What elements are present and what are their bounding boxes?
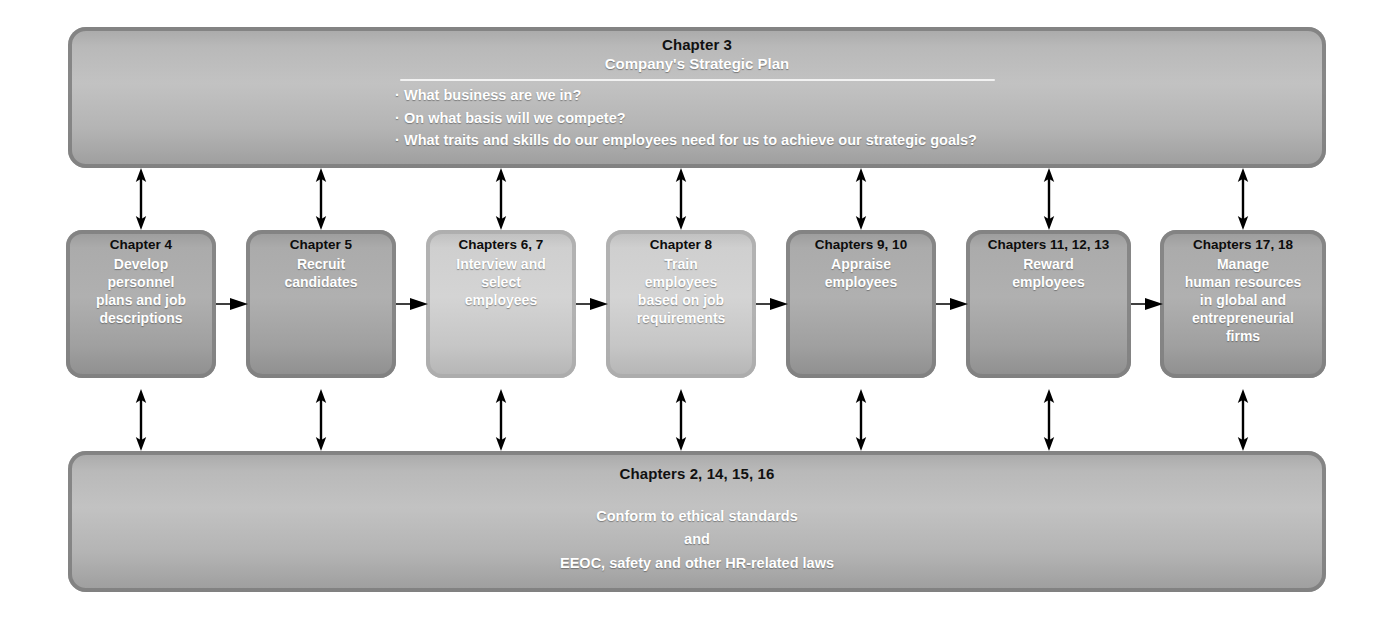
vertical-double-arrow-top bbox=[1041, 168, 1057, 230]
process-flow-arrow bbox=[216, 296, 248, 312]
bottom-panel-lines: Conform to ethical standardsandEEOC, saf… bbox=[68, 505, 1326, 575]
vertical-double-arrow-bottom bbox=[313, 389, 329, 451]
step-chapter-label: Chapter 5 bbox=[251, 237, 391, 254]
process-step-box[interactable]: Chapters 6, 7Interview andselectemployee… bbox=[426, 230, 576, 378]
top-panel-title: Company's Strategic Plan bbox=[68, 54, 1326, 74]
process-step-box[interactable]: Chapter 4Developpersonnelplans and jobde… bbox=[66, 230, 216, 378]
strategic-questions-list: What business are we in?On what basis wi… bbox=[68, 84, 1326, 152]
vertical-double-arrow-top bbox=[313, 168, 329, 230]
bottom-panel-line: EEOC, safety and other HR-related laws bbox=[68, 552, 1326, 575]
title-divider bbox=[400, 79, 995, 81]
step-chapter-label: Chapter 4 bbox=[71, 237, 211, 254]
diagram-canvas: Chapter 3 Company's Strategic Plan What … bbox=[0, 0, 1393, 619]
vertical-double-arrow-top bbox=[673, 168, 689, 230]
step-chapter-label: Chapters 9, 10 bbox=[791, 237, 931, 254]
step-body-text: Trainemployeesbased on jobrequirements bbox=[611, 255, 751, 328]
strategic-question-item: What traits and skills do our employees … bbox=[395, 129, 1326, 152]
vertical-double-arrow-bottom bbox=[133, 389, 149, 451]
vertical-double-arrow-top bbox=[493, 168, 509, 230]
process-flow-arrow bbox=[756, 296, 788, 312]
vertical-double-arrow-top bbox=[853, 168, 869, 230]
process-flow-arrow bbox=[1131, 296, 1163, 312]
strategic-question-item: What business are we in? bbox=[395, 84, 1326, 107]
vertical-double-arrow-bottom bbox=[1235, 389, 1251, 451]
process-flow-arrow bbox=[936, 296, 968, 312]
step-body-text: Managehuman resourcesin global andentrep… bbox=[1165, 255, 1321, 346]
process-step-box[interactable]: Chapters 11, 12, 13Rewardemployees bbox=[966, 230, 1131, 378]
step-body-text: Developpersonnelplans and jobdescription… bbox=[71, 255, 211, 328]
process-step-box[interactable]: Chapters 9, 10Appraiseemployees bbox=[786, 230, 936, 378]
step-chapter-label: Chapters 6, 7 bbox=[431, 237, 571, 254]
process-flow-arrow bbox=[576, 296, 608, 312]
process-step-box[interactable]: Chapter 5Recruitcandidates bbox=[246, 230, 396, 378]
vertical-double-arrow-bottom bbox=[493, 389, 509, 451]
step-body-text: Recruitcandidates bbox=[251, 255, 391, 291]
legal-ethics-panel: Chapters 2, 14, 15, 16 Conform to ethica… bbox=[68, 451, 1326, 592]
vertical-double-arrow-top bbox=[133, 168, 149, 230]
top-panel-chapter-label: Chapter 3 bbox=[68, 36, 1326, 54]
bottom-panel-chapter-label: Chapters 2, 14, 15, 16 bbox=[68, 465, 1326, 483]
process-step-box[interactable]: Chapter 8Trainemployeesbased on jobrequi… bbox=[606, 230, 756, 378]
bottom-panel-line: and bbox=[68, 528, 1326, 551]
step-body-text: Interview andselectemployees bbox=[431, 255, 571, 310]
step-body-text: Rewardemployees bbox=[971, 255, 1126, 291]
strategic-question-item: On what basis will we compete? bbox=[395, 107, 1326, 130]
process-flow-arrow bbox=[396, 296, 428, 312]
process-step-box[interactable]: Chapters 17, 18Managehuman resourcesin g… bbox=[1160, 230, 1326, 378]
vertical-double-arrow-top bbox=[1235, 168, 1251, 230]
bottom-panel-line: Conform to ethical standards bbox=[68, 505, 1326, 528]
step-chapter-label: Chapters 11, 12, 13 bbox=[971, 237, 1126, 254]
vertical-double-arrow-bottom bbox=[673, 389, 689, 451]
strategic-plan-panel: Chapter 3 Company's Strategic Plan What … bbox=[68, 27, 1326, 168]
step-chapter-label: Chapter 8 bbox=[611, 237, 751, 254]
vertical-double-arrow-bottom bbox=[853, 389, 869, 451]
vertical-double-arrow-bottom bbox=[1041, 389, 1057, 451]
step-body-text: Appraiseemployees bbox=[791, 255, 931, 291]
step-chapter-label: Chapters 17, 18 bbox=[1165, 237, 1321, 254]
